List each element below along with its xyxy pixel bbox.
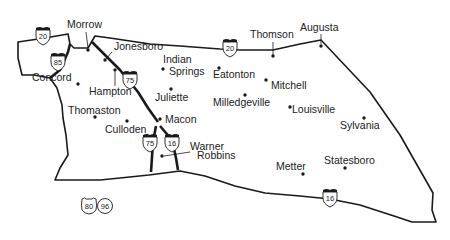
city-label: Metter: [276, 160, 306, 172]
interstate-shield-icon: 16: [165, 134, 179, 152]
shield-number: 16: [168, 139, 176, 148]
city-dot: [343, 166, 346, 169]
city-dot: [76, 82, 79, 85]
city-dot: [161, 67, 164, 70]
city-label: Springs: [169, 65, 205, 77]
city-dot: [319, 44, 322, 47]
shield-number: 20: [39, 32, 47, 41]
interstate-shield-icon: 75: [123, 71, 137, 89]
city-label: Concord: [32, 71, 72, 83]
city-layer: MorrowJonesboroConcordHamptonIndianSprin…: [32, 18, 380, 176]
us-route-shield-icon: 80: [82, 198, 97, 214]
city-label: Milledgeville: [213, 96, 270, 108]
city-dot: [86, 48, 89, 51]
city-label: Augusta: [300, 21, 339, 33]
georgia-region-map: MorrowJonesboroConcordHamptonIndianSprin…: [0, 0, 450, 240]
city-label: Mitchell: [271, 79, 307, 91]
shield-number: 85: [54, 58, 62, 67]
warner-robbins-leader: [164, 152, 190, 156]
shield-number: 75: [126, 76, 134, 85]
city-label: Eatonton: [213, 68, 255, 80]
city-label: Macon: [165, 113, 197, 125]
city-dot: [158, 117, 161, 120]
city-label: Culloden: [105, 123, 147, 135]
city-dot: [271, 54, 274, 57]
city-label: Louisville: [292, 103, 335, 115]
shield-number: 16: [326, 194, 334, 203]
city-label: Hampton: [89, 85, 132, 97]
interstate-shield-icon: 20: [36, 27, 50, 45]
city-dot: [103, 58, 106, 61]
city-label: Sylvania: [340, 119, 380, 131]
city-dot: [301, 172, 304, 175]
shield-number: 80: [85, 202, 93, 211]
city-label: Robbins: [197, 149, 236, 161]
city-dot: [264, 78, 267, 81]
city-label: Juliette: [155, 91, 188, 103]
interstate-shield-icon: 16: [323, 189, 337, 207]
city-label: Statesboro: [324, 154, 375, 166]
shield-number: 75: [146, 139, 154, 148]
city-label: Morrow: [67, 18, 102, 30]
city-label: Jonesboro: [114, 40, 163, 52]
city-label: Thomaston: [68, 104, 121, 116]
shield-number: 20: [226, 44, 234, 53]
us-route-shield-icon: 96: [98, 199, 113, 214]
morrow-leader: [86, 32, 88, 48]
city-dot: [113, 68, 116, 71]
interstate-shield-icon: 75: [143, 134, 157, 152]
shield-number: 96: [101, 202, 109, 211]
city-dot: [160, 154, 163, 157]
city-label: Thomson: [250, 28, 294, 40]
interstate-shield-icon: 20: [223, 39, 237, 57]
interstate-shield-icon: 85: [51, 53, 65, 71]
city-label: Indian: [163, 53, 192, 65]
